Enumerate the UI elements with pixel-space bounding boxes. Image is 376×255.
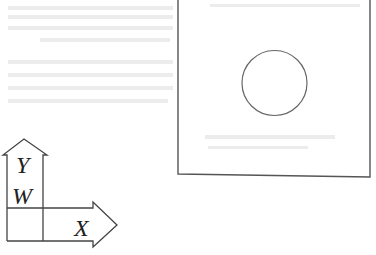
w-axis-label: W [12,183,34,209]
figure-drawing: Y W X [0,0,376,255]
workpiece-outline [178,0,370,177]
bleed-through-text [8,4,360,149]
workpiece [178,0,370,177]
x-axis-label: X [73,215,90,241]
hole-circle [242,51,307,116]
y-axis-label: Y [16,152,32,178]
